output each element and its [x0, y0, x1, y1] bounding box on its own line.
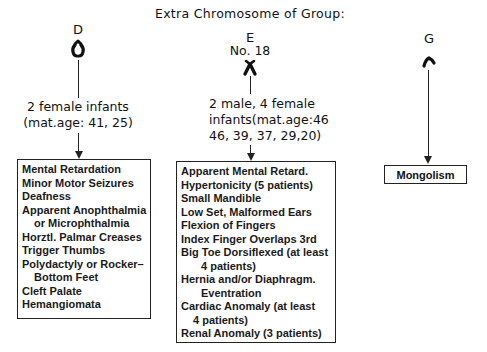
group-d-findings-box: Mental Retardation Minor Motor Seizures … [17, 159, 151, 319]
finding-item: Flexion of Fingers [181, 219, 331, 233]
finding-item: Apparent Anophthalmia [22, 204, 146, 218]
group-d-caption: 2 female infants (mat.age: 41, 25) [22, 99, 134, 131]
finding-item: Deafness [22, 190, 146, 204]
finding-item: Big Toe Dorsiflexed (at least [181, 246, 331, 260]
finding-item: Index Finger Overlaps 3rd [181, 233, 331, 247]
finding-item: Mental Retardation [22, 163, 146, 177]
finding-item: Cleft Palate [22, 285, 146, 299]
group-d-arrow-line [78, 133, 79, 153]
group-e-caption-line: infants(mat.age:46 [195, 112, 310, 128]
group-e-caption-line: 46, 39, 37, 29,20) [195, 128, 310, 144]
group-d-caption-line: (mat.age: 41, 25) [22, 115, 134, 131]
group-e-caption: 2 male, 4 female infants(mat.age:46 46, … [195, 96, 310, 144]
finding-item: Polydactyly or Rocker– [22, 258, 146, 272]
group-d-connector [78, 60, 79, 98]
group-d-caption-line: 2 female infants [22, 99, 134, 115]
finding-item: Minor Motor Seizures [22, 177, 146, 191]
group-e-caption-line: 2 male, 4 female [195, 96, 310, 112]
finding-item: Bottom Feet [22, 271, 146, 285]
arrow-down-icon [75, 151, 83, 159]
arrow-down-icon [247, 153, 255, 161]
arrow-down-icon [424, 156, 432, 164]
finding-item: Apparent Mental Retard. [181, 165, 331, 179]
diagram-title: Extra Chromosome of Group: [0, 6, 487, 21]
finding-item: Low Set, Malformed Ears [181, 206, 331, 220]
finding-item: Small Mandible [181, 192, 331, 206]
group-g-connector [428, 70, 429, 158]
group-g-label: G [419, 31, 439, 46]
group-e-sublabel: No. 18 [225, 43, 275, 58]
finding-item: Hernia and/or Diaphragm. [181, 273, 331, 287]
finding-item: Trigger Thumbs [22, 244, 146, 258]
finding-item: Hypertonicity (5 patients) [181, 179, 331, 193]
finding-item: or Microphthalmia [22, 217, 146, 231]
group-e-findings-box: Apparent Mental Retard. Hypertonicity (5… [176, 161, 336, 343]
finding-item: Hemangiomata [22, 298, 146, 312]
group-e-connector [250, 76, 251, 94]
finding-item: 4 patients) [181, 314, 331, 328]
finding-item: Renal Anomaly (3 patients) [181, 327, 331, 341]
finding-item: Eventration [181, 287, 331, 301]
finding-item: 4 patients) [181, 260, 331, 274]
finding-item: Horztl. Palmar Creases [22, 231, 146, 245]
group-g-findings-box: Mongolism [384, 165, 467, 184]
finding-item: Cardiac Anomaly (at least [181, 300, 331, 314]
finding-item: Mongolism [385, 166, 466, 183]
chromosome-e-icon [242, 59, 258, 75]
chromosome-d-icon [70, 40, 86, 58]
group-d-label: D [68, 22, 88, 37]
chromosome-g-icon [422, 55, 436, 67]
